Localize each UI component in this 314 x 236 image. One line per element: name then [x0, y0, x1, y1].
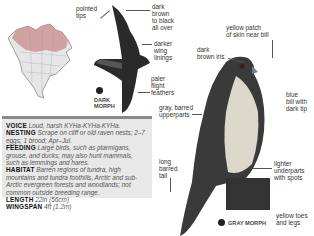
- info-habitat: HABITAT Barren regions of tundra, high m…: [6, 166, 148, 196]
- range-map: [6, 22, 78, 102]
- label-dark-brown-iris: dark brown iris: [197, 46, 224, 60]
- label-darker-wing-linings: darker wing linings: [154, 40, 172, 61]
- label-gray-upperparts: gray, barred upperparts: [159, 104, 193, 118]
- leader-line: [272, 40, 273, 58]
- leader-line: [170, 178, 171, 192]
- label-long-barred-tail: long barred tail: [159, 158, 177, 179]
- label-blue-bill: blue bill with dark tip: [286, 91, 307, 112]
- leader-line: [142, 44, 152, 45]
- info-feeding: FEEDING Large birds, such as ptarmigans,…: [6, 144, 148, 166]
- info-length: LENGTH 22in (56cm): [6, 196, 148, 203]
- morph-symbol-icon: [96, 87, 103, 94]
- leader-line: [192, 114, 202, 115]
- info-nesting: NESTING Scrape on cliff or old raven nes…: [6, 129, 148, 144]
- leader-line: [138, 92, 150, 93]
- gray-morph-label: GRAY MORPH: [228, 220, 266, 226]
- morph-symbol-icon: [218, 219, 225, 226]
- dark-morph-label: DARK MORPH: [94, 97, 115, 109]
- info-voice: VOICE Loud, harsh KYHa-KYHa-KYHa.: [6, 122, 148, 129]
- label-lighter-underparts: lighter underparts with spots: [274, 160, 305, 181]
- label-pointed-tips: pointed tips: [76, 5, 97, 19]
- label-yellow-patch: yellow patch of skin near bill: [226, 24, 269, 38]
- gray-morph-illustration: [176, 52, 286, 236]
- info-wingspan: WINGSPAN 4ft (1.2m): [6, 203, 148, 210]
- leader-line: [252, 168, 272, 169]
- label-yellow-toes: yellow toes and legs: [276, 212, 308, 226]
- leader-line: [126, 10, 150, 11]
- label-dark-brown: dark brown to black all over: [152, 3, 174, 31]
- species-info-box: VOICE Loud, harsh KYHa-KYHa-KYHa. NESTIN…: [2, 116, 152, 198]
- label-paler-flight-feathers: paler flight feathers: [151, 75, 174, 96]
